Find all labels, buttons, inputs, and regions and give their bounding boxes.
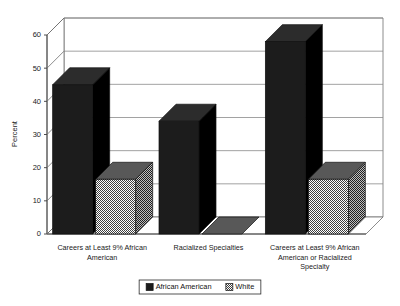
bar-side-face (199, 104, 216, 234)
x-category-label: Racialized Specialties (174, 243, 244, 252)
legend-swatch (226, 284, 233, 291)
bar-front-face (308, 179, 348, 234)
y-tick-label: 20 (33, 163, 41, 172)
legend-label: African American (156, 282, 212, 291)
legend-swatch (146, 284, 153, 291)
y-tick-label: 0 (37, 229, 41, 238)
bar (308, 162, 365, 234)
bar (96, 162, 153, 234)
bar-front-face (53, 85, 93, 234)
bar (159, 104, 216, 234)
x-category-label: Careers at Least 9% African (270, 243, 360, 252)
category-labels: Careers at Least 9% AfricanAmericanRacia… (57, 243, 359, 271)
legend: African AmericanWhite (139, 280, 261, 294)
bar-front-face (265, 42, 305, 234)
bar-front-face (96, 179, 136, 234)
chart-canvas: 0102030405060 Careers at Least 9% Africa… (0, 0, 400, 306)
x-category-label: American or Racialized (278, 253, 352, 262)
bar-front-face (159, 121, 199, 234)
y-tick-label: 10 (33, 196, 41, 205)
y-tick-label: 40 (33, 97, 41, 106)
x-category-label: Specialty (300, 262, 330, 271)
y-axis: 0102030405060 (33, 30, 47, 238)
y-tick-label: 60 (33, 30, 41, 39)
y-axis-title: Percent (10, 120, 19, 147)
bar-chart: 0102030405060 Careers at Least 9% Africa… (0, 0, 400, 306)
x-category-label: Careers at Least 9% African (57, 243, 147, 252)
y-tick-label: 30 (33, 130, 41, 139)
x-category-label: American (87, 253, 117, 262)
legend-label: White (235, 282, 254, 291)
y-tick-label: 50 (33, 64, 41, 73)
